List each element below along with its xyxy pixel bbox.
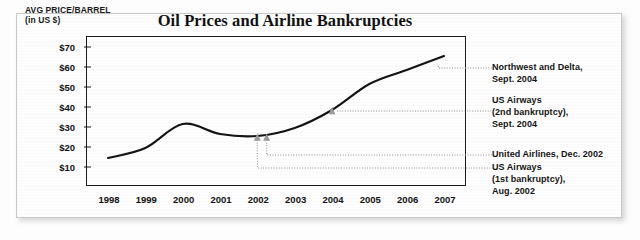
y-axis-caption-line2: (in US $) (25, 15, 111, 25)
y-axis-tick-label: $10 (59, 162, 75, 173)
y-axis-caption-line1: AVG PRICE/BARREL (25, 5, 111, 15)
y-axis-tick-label: $60 (59, 62, 75, 73)
x-axis-tick-label: 1999 (136, 194, 157, 205)
x-axis-tick-label: 2000 (173, 194, 194, 205)
annotation-united-airlines: United Airlines, Dec. 2002 (492, 149, 603, 161)
y-axis-tick-mark (84, 147, 91, 148)
y-axis-tick-mark (84, 167, 91, 168)
y-axis-tick-mark (84, 107, 91, 108)
y-axis-tick-label: $70 (59, 42, 75, 53)
x-axis-tick-label: 2004 (322, 194, 343, 205)
y-axis-tick-label: $50 (59, 82, 75, 93)
annotation-us-airways-2nd: US Airways (2nd bankruptcy), Sept. 2004 (492, 95, 568, 131)
x-axis-tick-label: 2001 (210, 194, 231, 205)
y-axis-tick-label: $30 (59, 122, 75, 133)
x-axis-tick-label: 2005 (360, 194, 381, 205)
x-axis-tick-label: 1998 (98, 194, 119, 205)
x-axis-tick-label: 2007 (434, 194, 455, 205)
y-axis-tick-mark (84, 67, 91, 68)
y-axis-tick-label: $20 (59, 142, 75, 153)
y-axis-caption: AVG PRICE/BARREL (in US $) (25, 5, 111, 26)
x-axis-tick-label: 2006 (397, 194, 418, 205)
annotation-northwest-delta: Northwest and Delta, Sept. 2004 (492, 62, 583, 86)
plot-area: $10$20$30$40$50$60$701998199920002001200… (86, 36, 466, 186)
y-axis-tick-label: $40 (59, 102, 75, 113)
chart-page: AVG PRICE/BARREL (in US $) Oil Prices an… (0, 0, 640, 240)
annotation-us-airways-1st: US Airways (1st bankruptcy), Aug. 2002 (492, 162, 565, 198)
chart-title: Oil Prices and Airline Bankruptcies (120, 11, 450, 31)
y-axis-tick-mark (84, 127, 91, 128)
y-axis-tick-mark (84, 47, 91, 48)
y-axis-tick-mark (84, 87, 91, 88)
x-axis-tick-label: 2002 (248, 194, 269, 205)
x-axis-tick-label: 2003 (285, 194, 306, 205)
